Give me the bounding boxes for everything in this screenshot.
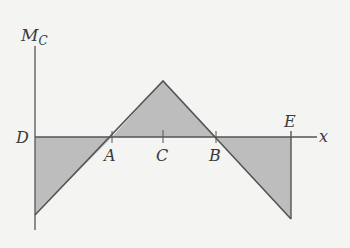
point-b-label: B <box>208 146 221 165</box>
positive-region-center <box>112 81 216 137</box>
point-c-label: C <box>156 146 168 165</box>
point-d-label: D <box>15 128 29 147</box>
y-axis-label: MC <box>20 25 48 48</box>
moment-diagram: MC x D A C B E <box>0 0 350 248</box>
x-axis-label: x <box>319 127 328 146</box>
point-e-label: E <box>283 112 296 131</box>
point-a-label: A <box>102 146 116 165</box>
